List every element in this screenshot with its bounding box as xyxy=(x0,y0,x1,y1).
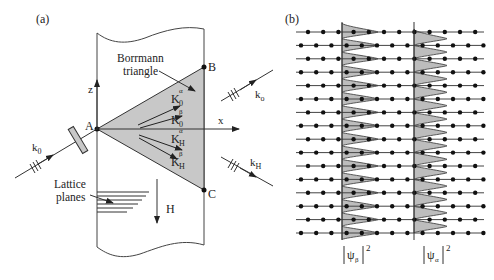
atom-dot xyxy=(436,70,440,74)
atom-dot xyxy=(382,164,386,168)
atom-dot xyxy=(329,124,333,128)
atom-dot xyxy=(405,150,409,154)
atom-dot xyxy=(420,231,424,235)
atom-dot xyxy=(329,150,333,154)
atom-dot xyxy=(390,43,394,47)
svg-text:α: α xyxy=(179,87,183,95)
atom-dot xyxy=(351,217,355,221)
atom-dot xyxy=(405,124,409,128)
svg-text:ψ: ψ xyxy=(427,248,435,262)
atom-dot xyxy=(314,97,318,101)
atom-dot xyxy=(443,30,447,34)
atom-dot xyxy=(466,124,470,128)
atom-dot xyxy=(375,97,379,101)
atom-dot xyxy=(443,137,447,141)
atom-dot xyxy=(375,43,379,47)
atom-dot xyxy=(436,43,440,47)
atom-dot xyxy=(314,204,318,208)
atom-dot xyxy=(420,150,424,154)
atom-dot xyxy=(367,164,371,168)
atom-dot xyxy=(420,97,424,101)
diffracted-beam-arrow xyxy=(240,168,256,177)
atom-dot xyxy=(351,137,355,141)
svg-text:ψ: ψ xyxy=(347,248,355,262)
point-c-label: C xyxy=(208,187,216,201)
atom-dot xyxy=(360,43,364,47)
atom-dot xyxy=(405,43,409,47)
atom-dot xyxy=(443,217,447,221)
atom-dot xyxy=(466,97,470,101)
atom-dot xyxy=(443,83,447,87)
atom-dot xyxy=(390,97,394,101)
atom-dot xyxy=(436,204,440,208)
atom-dot xyxy=(336,217,340,221)
atom-dot xyxy=(451,124,455,128)
atom-dot xyxy=(405,97,409,101)
atom-dot xyxy=(329,97,333,101)
atom-dot xyxy=(299,231,303,235)
atom-dot xyxy=(390,124,394,128)
atom-dot xyxy=(390,231,394,235)
atom-dot xyxy=(375,70,379,74)
atom-dot xyxy=(321,137,325,141)
atom-dot xyxy=(344,124,348,128)
atom-dot xyxy=(351,57,355,61)
atom-dot xyxy=(473,57,477,61)
atom-dot xyxy=(420,70,424,74)
atom-dot xyxy=(344,231,348,235)
atom-dot xyxy=(336,137,340,141)
atom-dot xyxy=(306,217,310,221)
atom-dot xyxy=(390,150,394,154)
atom-dot xyxy=(390,204,394,208)
atom-dot xyxy=(451,150,455,154)
atom-dot xyxy=(405,231,409,235)
atom-dot xyxy=(451,97,455,101)
diffracted-wavefront-hash-icon xyxy=(228,159,239,172)
atom-dot xyxy=(436,124,440,128)
atom-dot xyxy=(360,97,364,101)
atom-dot xyxy=(321,217,325,221)
atom-dot xyxy=(321,30,325,34)
forward-wavefront-hash-icon xyxy=(228,88,239,101)
atom-dot xyxy=(306,137,310,141)
lattice-label-line2: planes xyxy=(56,191,86,204)
svg-text:β: β xyxy=(355,256,359,264)
point-c-marker xyxy=(202,188,207,193)
atom-dot xyxy=(390,70,394,74)
atom-dot xyxy=(436,150,440,154)
atom-dot xyxy=(481,204,485,208)
svg-text:β: β xyxy=(179,150,183,158)
atom-dot xyxy=(466,150,470,154)
atom-dot xyxy=(314,43,318,47)
atom-dot xyxy=(375,204,379,208)
atom-dot xyxy=(473,191,477,195)
atom-dot xyxy=(443,57,447,61)
atom-dot xyxy=(382,30,386,34)
atom-dot xyxy=(397,57,401,61)
atom-dot xyxy=(458,191,462,195)
atom-dot xyxy=(397,137,401,141)
atom-dot xyxy=(466,43,470,47)
atom-dot xyxy=(458,83,462,87)
incident-k0-label: k0 xyxy=(32,141,42,156)
forward-beam-arrow xyxy=(240,80,256,90)
atom-dot xyxy=(473,30,477,34)
diagram-canvas: (a) A B C z x Borrmann triangle xyxy=(0,0,494,280)
incident-beam xyxy=(15,129,97,178)
panel-b-label: (b) xyxy=(285,12,299,26)
atom-dot xyxy=(458,110,462,114)
atom-dot xyxy=(458,164,462,168)
atom-dot xyxy=(321,191,325,195)
atom-dot xyxy=(466,231,470,235)
panel-a: (a) A B C z x Borrmann triangle xyxy=(15,12,273,257)
atom-dot xyxy=(336,110,340,114)
atom-dot xyxy=(329,204,333,208)
atom-dot xyxy=(481,124,485,128)
atom-dot xyxy=(436,177,440,181)
atom-dot xyxy=(427,57,431,61)
atom-dot xyxy=(420,124,424,128)
atom-dot xyxy=(382,137,386,141)
z-axis-label: z xyxy=(88,83,93,95)
lattice-planes xyxy=(97,192,149,212)
atom-dot xyxy=(397,191,401,195)
